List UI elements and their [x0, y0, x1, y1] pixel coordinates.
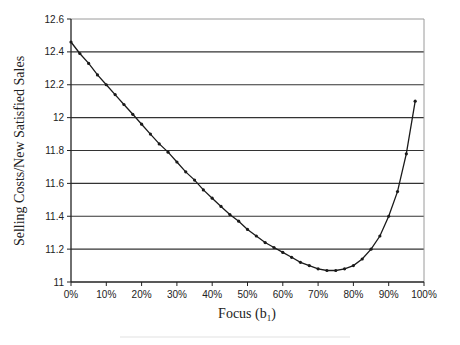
x-tick-label: 70%: [308, 289, 328, 300]
data-point-marker: [272, 246, 275, 249]
data-point-marker: [158, 142, 161, 145]
y-axis-title: Selling Costs/New Satisfied Sales: [12, 56, 27, 246]
data-point-marker: [246, 228, 249, 231]
data-point-marker: [405, 152, 408, 155]
data-point-marker: [228, 213, 231, 216]
y-tick-label: 12: [53, 112, 65, 123]
x-tick-label: 80%: [343, 289, 363, 300]
data-point-marker: [352, 264, 355, 267]
gridlines: [71, 19, 424, 249]
x-tick-label: 50%: [237, 289, 257, 300]
data-point-marker: [149, 132, 152, 135]
x-axis-title-main: Focus (b: [218, 306, 267, 322]
data-point-marker: [69, 40, 72, 43]
y-tick-label: 12.2: [45, 79, 65, 90]
data-point-marker: [78, 52, 81, 55]
y-tick-label: 11.6: [45, 178, 64, 189]
data-point-marker: [299, 261, 302, 264]
data-point-marker: [131, 113, 134, 116]
data-point-marker: [122, 103, 125, 106]
data-point-marker: [105, 83, 108, 86]
data-point-marker: [378, 234, 381, 237]
data-point-marker: [202, 188, 205, 191]
y-tick-label: 11.8: [45, 145, 64, 156]
data-point-marker: [193, 178, 196, 181]
data-series: [69, 40, 416, 272]
x-tick-label: 40%: [202, 289, 222, 300]
data-point-marker: [369, 248, 372, 251]
data-point-marker: [211, 197, 214, 200]
data-point-marker: [184, 170, 187, 173]
data-point-marker: [96, 73, 99, 76]
y-tick-label: 12.6: [45, 14, 65, 25]
data-point-marker: [325, 269, 328, 272]
data-point-marker: [140, 123, 143, 126]
y-tick-label: 11.2: [45, 244, 64, 255]
y-axis-ticks: 1111.211.411.611.81212.212.412.6: [45, 14, 71, 288]
y-tick-label: 11: [54, 277, 65, 288]
data-point-marker: [387, 215, 390, 218]
data-point-marker: [255, 234, 258, 237]
data-point-marker: [414, 100, 417, 103]
data-point-marker: [175, 160, 178, 163]
x-axis-title: Focus (b1): [218, 306, 276, 323]
data-point-marker: [317, 267, 320, 270]
data-point-marker: [396, 190, 399, 193]
line-chart: 1111.211.411.611.81212.212.412.6 0%10%20…: [0, 0, 460, 345]
x-axis-ticks: 0%10%20%30%40%50%60%70%80%90%100%: [64, 282, 437, 300]
data-point-marker: [237, 220, 240, 223]
data-point-marker: [361, 257, 364, 260]
x-tick-label: 10%: [96, 289, 116, 300]
x-tick-label: 90%: [379, 289, 399, 300]
data-point-marker: [166, 151, 169, 154]
data-point-marker: [334, 269, 337, 272]
data-point-marker: [308, 264, 311, 267]
x-tick-label: 60%: [273, 289, 293, 300]
x-tick-label: 20%: [132, 289, 152, 300]
faint-caption-strip: [120, 336, 350, 338]
y-tick-label: 11.4: [45, 211, 64, 222]
data-point-marker: [87, 62, 90, 65]
x-tick-label: 0%: [64, 289, 79, 300]
series-line: [71, 42, 415, 271]
data-point-marker: [281, 251, 284, 254]
data-point-marker: [219, 205, 222, 208]
data-point-marker: [114, 93, 117, 96]
x-axis-title-close: ): [271, 306, 276, 322]
data-point-marker: [290, 256, 293, 259]
y-tick-label: 12.4: [45, 46, 65, 57]
x-tick-label: 100%: [411, 289, 437, 300]
data-point-marker: [343, 267, 346, 270]
x-tick-label: 30%: [167, 289, 187, 300]
data-point-marker: [264, 241, 267, 244]
